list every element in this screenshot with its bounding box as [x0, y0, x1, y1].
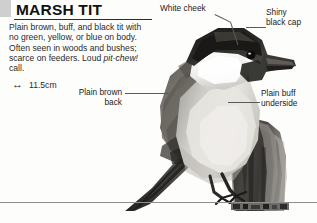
field-guide-page: MARSH TIT Plain brown, buff, and black t… [0, 0, 317, 223]
callout-shiny-black-cap-line-2: black cap [266, 18, 301, 28]
page-title: MARSH TIT [16, 1, 102, 19]
leader-line-plain-brown-back [125, 93, 169, 94]
callout-plain-buff-underside: Plain buff underside [261, 89, 297, 108]
callout-white-cheek: White cheek [160, 4, 206, 14]
bird-beak [260, 54, 296, 72]
bird-eye [246, 51, 255, 59]
photo-ground-shadow [231, 196, 289, 203]
description-line-5-tail: call. [9, 63, 24, 73]
callout-plain-buff-underside-line-2: underside [261, 99, 297, 109]
callout-plain-brown-back: Plain brown back [68, 88, 122, 107]
description-line-1: Plain brown, buff, and black tit [9, 22, 124, 32]
callout-shiny-black-cap: Shiny black cap [266, 8, 301, 27]
callout-white-cheek-line-1: White cheek [160, 4, 206, 14]
section-tab-marker [0, 0, 11, 17]
leader-line-plain-buff-underside [228, 102, 260, 103]
marsh-tit-photograph [118, 6, 303, 211]
size-value: 11.5cm [29, 80, 57, 90]
leader-line-shiny-black-cap [246, 27, 266, 28]
double-headed-arrow-icon: ↔ [12, 79, 23, 90]
size-measurement: ↔ 11.5cm [12, 79, 57, 90]
callout-plain-brown-back-line-2: back [68, 98, 122, 108]
